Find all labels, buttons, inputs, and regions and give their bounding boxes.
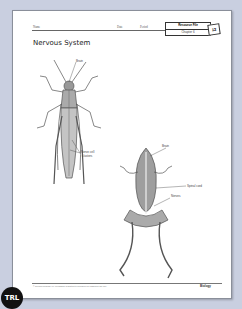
frog-brain-label: Brain xyxy=(162,144,169,148)
illustrations xyxy=(0,0,242,309)
frog-nerves-label: Nerves xyxy=(171,194,181,198)
frog-illustration xyxy=(120,148,186,278)
grasshopper-clusters-label: clusters xyxy=(82,154,92,158)
biology-brand: Biology xyxy=(200,284,211,288)
trl-badge: TRL xyxy=(1,287,23,309)
frog-spinal-cord-label: Spinal cord xyxy=(187,184,202,188)
footer-divider xyxy=(32,283,222,284)
grasshopper-brain-label: Brain xyxy=(76,59,83,63)
grasshopper-illustration xyxy=(37,60,101,184)
copyright-text: © Glencoe/McGraw-Hill. Permission is gra… xyxy=(33,285,107,287)
